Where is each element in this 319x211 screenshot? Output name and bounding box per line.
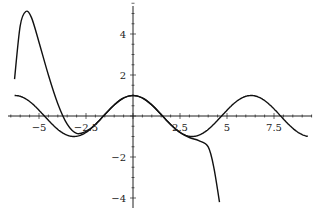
x-tick-label: 2.5 — [172, 122, 188, 133]
line-chart: −5−2.52.557.542−2−4 — [0, 0, 319, 211]
x-tick-label: 7.5 — [266, 122, 282, 133]
axes — [8, 3, 312, 208]
y-tick-label: 2 — [120, 70, 126, 81]
series-polynomial — [15, 11, 220, 202]
x-tick-label: −2.5 — [74, 122, 98, 133]
x-tick-label: 5 — [224, 122, 230, 133]
chart-root: −5−2.52.557.542−2−4 — [0, 0, 319, 211]
y-tick-label: −4 — [111, 193, 126, 204]
y-tick-label: −2 — [111, 152, 126, 163]
x-tick-label: −5 — [32, 122, 47, 133]
y-tick-label: 4 — [120, 29, 126, 40]
plot-lines — [15, 11, 308, 202]
